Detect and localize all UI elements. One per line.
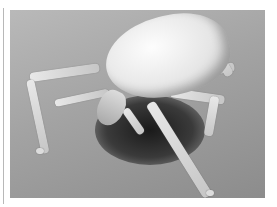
left-edge-line xyxy=(3,8,4,204)
tick-foot xyxy=(36,148,44,154)
tick-photo xyxy=(10,10,265,198)
tick-leg-left-front-lower xyxy=(26,79,49,154)
tick-leg-left-front xyxy=(29,63,100,82)
tick-foot xyxy=(206,190,214,196)
